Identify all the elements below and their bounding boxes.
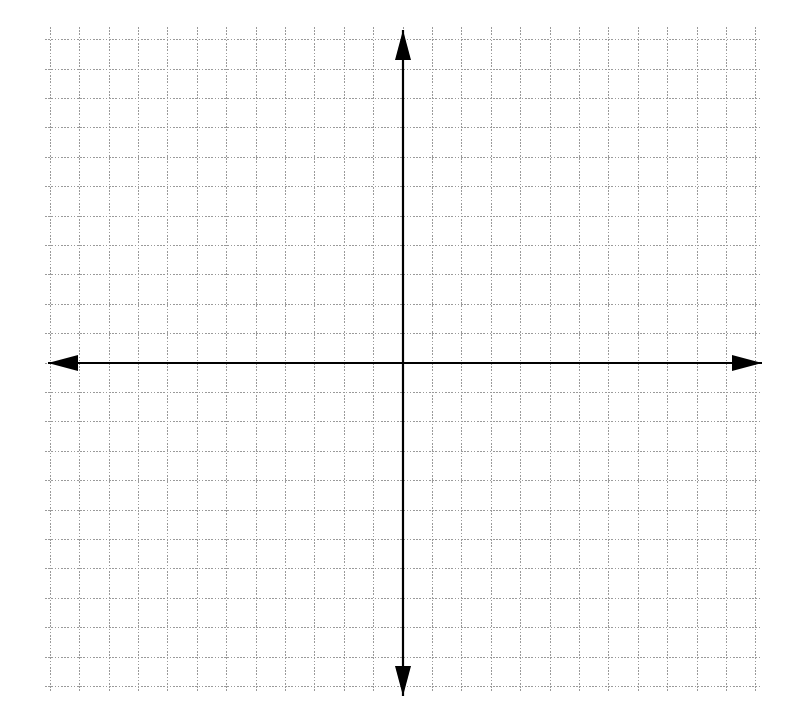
figure-background	[0, 0, 795, 719]
coordinate-plane	[0, 0, 795, 719]
coordinate-grid-figure	[0, 0, 795, 719]
